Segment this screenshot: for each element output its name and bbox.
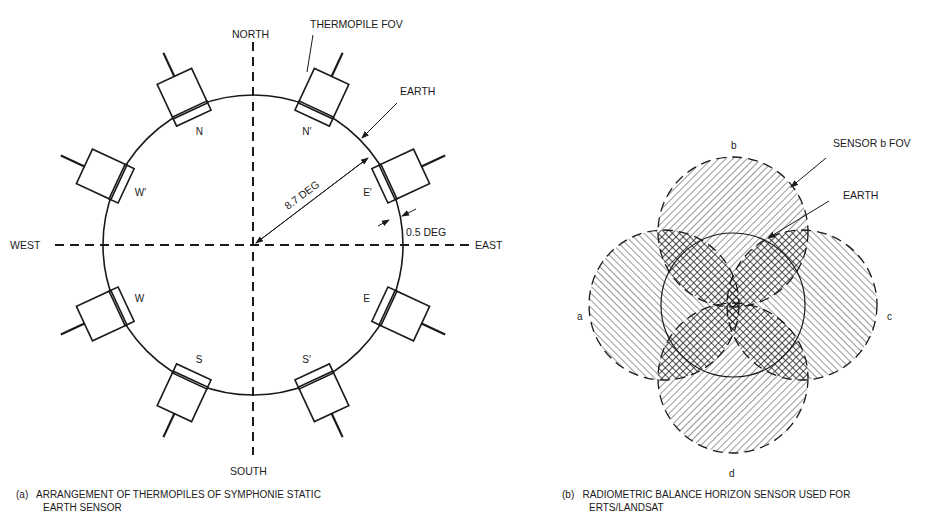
thermopile-label: W′ — [135, 187, 146, 198]
caption-b-line1: (b) RADIOMETRIC BALANCE HORIZON SENSOR U… — [562, 489, 850, 500]
gap-arrow-right — [402, 209, 416, 216]
west-label: WEST — [10, 239, 41, 251]
radius-label: 8.7 DEG — [282, 178, 321, 212]
thermopile-sensor — [295, 364, 360, 445]
thermopile-label: S′ — [302, 354, 311, 365]
caption-a-line2: EARTH SENSOR — [43, 502, 122, 513]
thermopile-body — [76, 290, 126, 340]
thermopile-mount-stem — [163, 53, 174, 77]
caption-a-line1: (a) ARRANGEMENT OF THERMOPILES OF SYMPHO… — [16, 489, 321, 500]
thermopile-label: S — [196, 354, 203, 365]
thermopile-body — [379, 290, 429, 340]
thermopile-sensor — [53, 287, 134, 352]
thermopile-sensor — [295, 45, 360, 126]
thermopile-label: N′ — [302, 126, 311, 137]
thermopile-body — [157, 371, 207, 421]
thermopile-sensor — [53, 138, 134, 203]
thermopile-label: N — [196, 126, 203, 137]
thermopile-body — [379, 149, 429, 199]
thermopile-body — [157, 68, 207, 118]
thermopile-sensor — [146, 364, 211, 445]
earth-callout-label: EARTH — [400, 85, 435, 97]
sensor-label-c: c — [887, 311, 892, 322]
sensor-label-a: a — [577, 311, 583, 322]
sensor-b-fov-label: SENSOR b FOV — [833, 137, 911, 149]
thermopile-mount-stem — [422, 324, 446, 335]
radius-arrow-tail — [256, 158, 368, 243]
radiometric-balance-sensor-diagram: SENSOR b FOV EARTH a b c d (b) RADIOMETR… — [562, 137, 911, 513]
thermopile-mount-stem — [163, 414, 174, 438]
thermopile-label: W — [135, 293, 145, 304]
thermopile-sensor — [372, 287, 453, 352]
thermopile-mount-stem — [332, 414, 343, 438]
thermopile-sensor — [146, 45, 211, 126]
gap-label: 0.5 DEG — [406, 226, 446, 238]
thermopile-mount-stem — [332, 53, 343, 77]
earth-b-label: EARTH — [843, 189, 878, 201]
thermopile-body — [76, 149, 126, 199]
thermopile-label: E′ — [363, 187, 372, 198]
thermopile-body — [298, 371, 348, 421]
thermopile-sensor — [372, 138, 453, 203]
thermopile-label: E — [363, 293, 370, 304]
north-label: NORTH — [232, 28, 269, 40]
south-label: SOUTH — [230, 465, 267, 477]
figure-canvas: NN′E′ES′SWW′ 8.7 DEG EARTH THERMOPILE FO… — [0, 0, 933, 519]
sensor-b-fov-arrow — [791, 158, 826, 187]
caption-b-line2: ERTS/LANDSAT — [589, 502, 664, 513]
thermopile-body — [298, 68, 348, 118]
thermopile-fov-leader — [307, 35, 313, 72]
thermopile-mount-stem — [422, 155, 446, 166]
symphonie-earth-sensor-diagram: NN′E′ES′SWW′ 8.7 DEG EARTH THERMOPILE FO… — [10, 18, 503, 513]
thermopile-fov-label: THERMOPILE FOV — [310, 18, 403, 30]
east-label: EAST — [475, 239, 503, 251]
gap-arrow-left — [378, 220, 389, 226]
sensor-label-d: d — [729, 468, 735, 479]
thermopile-mount-stem — [61, 324, 85, 335]
thermopile-mount-stem — [61, 155, 85, 166]
sensor-label-b: b — [731, 140, 737, 151]
earth-callout-arrow — [362, 103, 397, 138]
